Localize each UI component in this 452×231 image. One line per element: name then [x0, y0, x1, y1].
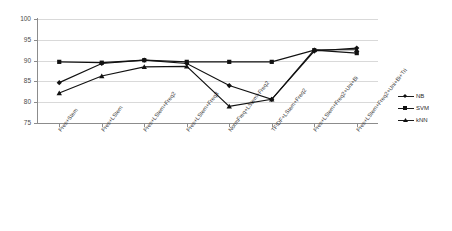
- series-knn: [57, 47, 360, 108]
- triangle-marker-icon: [403, 118, 408, 122]
- y-tick-label: 90: [5, 57, 31, 64]
- chart-legend: NBSVMkNN: [398, 90, 452, 126]
- square-marker-icon: [403, 106, 407, 110]
- data-point: [57, 80, 62, 85]
- legend-label: SVM: [416, 105, 429, 111]
- y-tick-label: 75: [5, 119, 31, 126]
- legend-label: kNN: [416, 117, 428, 123]
- legend-item-svm[interactable]: SVM: [398, 102, 452, 114]
- y-tick-label: 85: [5, 77, 31, 84]
- data-point: [142, 58, 146, 62]
- data-point: [227, 83, 232, 88]
- data-point: [227, 60, 231, 64]
- chart-figure: 1009590858075 Pres+StemPres+LStemPres+LS…: [0, 0, 452, 231]
- diamond-marker-icon: [403, 94, 407, 98]
- legend-line: [398, 96, 414, 97]
- y-tick-label: 100: [5, 15, 31, 22]
- x-axis-line: [37, 123, 378, 124]
- series-nb: [57, 46, 360, 102]
- data-point: [185, 60, 189, 64]
- series-line: [59, 48, 357, 99]
- y-tick-label: 95: [5, 36, 31, 43]
- legend-line: [398, 120, 414, 121]
- legend-item-nb[interactable]: NB: [398, 90, 452, 102]
- legend-item-knn[interactable]: kNN: [398, 114, 452, 126]
- plot-area: [38, 19, 378, 123]
- y-tick-label: 80: [5, 98, 31, 105]
- data-point: [57, 60, 61, 64]
- legend-line: [398, 108, 414, 109]
- data-point: [270, 60, 274, 64]
- data-point: [100, 61, 104, 65]
- legend-label: NB: [416, 93, 424, 99]
